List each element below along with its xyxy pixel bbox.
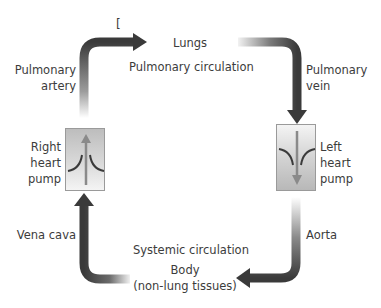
- body-label: Body (non-lung tissues): [130, 262, 240, 294]
- down-arrow-valve-icon: [277, 125, 317, 192]
- pulmonary-artery-label: Pulmonary artery: [8, 62, 76, 94]
- lungs-label: Lungs: [173, 35, 207, 51]
- pulmonary-vein-label: Pulmonary vein: [306, 62, 367, 94]
- bracket-mark: [: [116, 16, 121, 32]
- vena-cava-arrow: [74, 193, 130, 279]
- pulmonary-artery-arrow: [84, 33, 147, 118]
- left-heart-pump-label: Left heart pump: [320, 139, 353, 187]
- up-arrow-valve-icon: [66, 129, 106, 192]
- vena-cava-label: Vena cava: [4, 227, 76, 243]
- left-heart-pump: [276, 124, 316, 191]
- systemic-circulation-label: Systemic circulation: [133, 242, 249, 258]
- aorta-label: Aorta: [306, 227, 337, 243]
- circulation-diagram: [ Lungs Pulmonary circulation Pulmonary …: [0, 0, 381, 308]
- pulmonary-vein-arrow: [238, 42, 307, 124]
- right-heart-pump: [65, 128, 105, 191]
- pulmonary-circulation-label: Pulmonary circulation: [129, 59, 254, 75]
- right-heart-pump-label: Right heart pump: [8, 139, 61, 187]
